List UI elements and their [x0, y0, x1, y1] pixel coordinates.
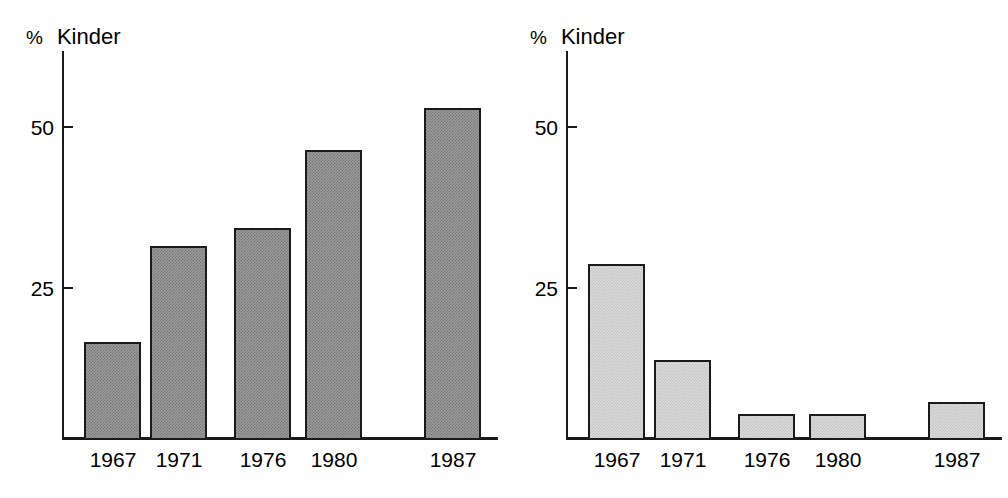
- x-label-1967-left: 1967: [90, 449, 137, 470]
- bar-1976-right: [738, 414, 795, 438]
- y-tick-label-25-left: 25: [31, 278, 54, 299]
- chart-panel-right: % Kinder 25 50 1967 1971 1976 1980 1987: [504, 0, 1008, 498]
- bar-1980-left: [305, 150, 362, 438]
- y-tick-label-25-right: 25: [535, 278, 558, 299]
- x-label-1976-left: 1976: [240, 449, 287, 470]
- bar-1987-left: [424, 108, 481, 438]
- x-label-1971-right: 1971: [660, 449, 707, 470]
- bar-1967-left: [84, 342, 141, 438]
- y-tick-mark-50-left: [64, 126, 73, 128]
- y-axis-line-right: [566, 51, 568, 439]
- y-tick-mark-25-right: [568, 287, 577, 289]
- axis-header-left: % Kinder: [26, 26, 121, 48]
- y-tick-label-50-left: 50: [31, 117, 54, 138]
- axis-header-right: % Kinder: [530, 26, 625, 48]
- x-label-1987-right: 1987: [934, 449, 981, 470]
- percent-sign-label: %: [26, 28, 43, 47]
- y-tick-mark-50-right: [568, 126, 577, 128]
- x-label-1967-right: 1967: [594, 449, 641, 470]
- x-label-1987-left: 1987: [430, 449, 477, 470]
- bar-1976-left: [234, 228, 291, 438]
- x-label-1976-right: 1976: [744, 449, 791, 470]
- x-label-1980-right: 1980: [815, 449, 862, 470]
- series-name-label: Kinder: [561, 26, 625, 48]
- percent-sign-label: %: [530, 28, 547, 47]
- y-axis-line-left: [62, 51, 64, 439]
- bar-1971-left: [150, 246, 207, 438]
- bar-1987-right: [928, 402, 985, 438]
- y-tick-mark-25-left: [64, 287, 73, 289]
- series-name-label: Kinder: [57, 26, 121, 48]
- bar-1967-right: [588, 264, 645, 438]
- bar-1980-right: [809, 414, 866, 438]
- chart-panel-left: % Kinder 25 50 1967 1971 1976 1980 1987: [0, 0, 504, 498]
- bar-1971-right: [654, 360, 711, 438]
- x-label-1971-left: 1971: [156, 449, 203, 470]
- y-tick-label-50-right: 50: [535, 117, 558, 138]
- x-label-1980-left: 1980: [311, 449, 358, 470]
- two-panel-bar-chart-figure: % Kinder 25 50 1967 1971 1976 1980 1987 …: [0, 0, 1008, 498]
